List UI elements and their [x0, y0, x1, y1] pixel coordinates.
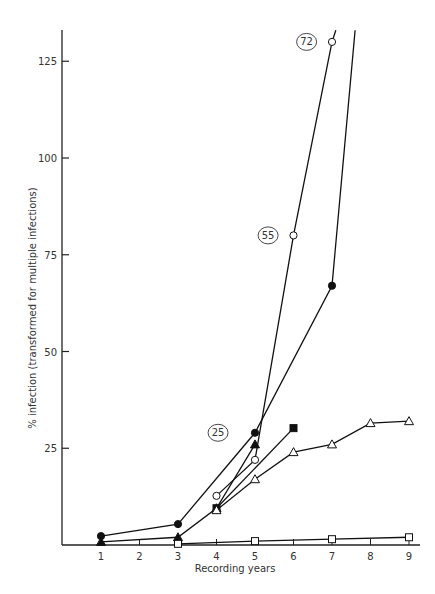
marker-circle [290, 232, 297, 239]
circled-annotation: 72 [297, 33, 317, 50]
infection-line-chart: 255075100125123456789 255572 Recording y… [0, 0, 435, 594]
x-tick-label: 9 [406, 551, 412, 562]
x-tick-label: 3 [175, 551, 181, 562]
y-axis-title: % infection (transformed for multiple in… [27, 187, 38, 429]
series-line [217, 421, 410, 510]
marker-square [290, 425, 297, 432]
marker-square [252, 538, 259, 545]
marker-square [329, 536, 336, 543]
x-tick-label: 4 [213, 551, 219, 562]
y-tick-label: 50 [44, 347, 57, 358]
svg-text:55: 55 [262, 230, 275, 241]
marker-triangle [251, 475, 260, 483]
marker-circle [328, 282, 335, 289]
y-tick-label: 100 [38, 153, 57, 164]
marker-circle [174, 521, 181, 528]
x-tick-label: 5 [252, 551, 258, 562]
x-tick-label: 6 [290, 551, 296, 562]
marker-circle [213, 492, 220, 499]
marker-circle [251, 456, 258, 463]
x-tick-label: 1 [98, 551, 104, 562]
marker-square [406, 534, 413, 541]
x-axis-title: Recording years [195, 563, 276, 574]
y-tick-label: 75 [44, 250, 57, 261]
svg-text:25: 25 [212, 427, 225, 438]
series-line [217, 30, 336, 496]
marker-square [175, 540, 182, 547]
marker-circle [251, 429, 258, 436]
marker-triangle [405, 417, 414, 425]
series-filled-circle [97, 30, 355, 539]
series-group [97, 30, 414, 547]
circled-annotation: 55 [258, 227, 278, 244]
x-tick-label: 2 [136, 551, 142, 562]
y-tick-label: 125 [38, 56, 57, 67]
series-line [101, 30, 355, 536]
x-tick-label: 8 [367, 551, 373, 562]
marker-circle [328, 38, 335, 45]
marker-triangle [328, 440, 337, 448]
marker-triangle [174, 533, 183, 541]
y-tick-label: 25 [44, 443, 57, 454]
series-open-circle [213, 30, 336, 499]
circled-annotation: 25 [208, 424, 228, 441]
x-tick-label: 7 [329, 551, 335, 562]
axes: 255075100125123456789 [38, 30, 420, 562]
svg-text:72: 72 [300, 36, 313, 47]
annotations-group: 255572 [208, 33, 317, 441]
